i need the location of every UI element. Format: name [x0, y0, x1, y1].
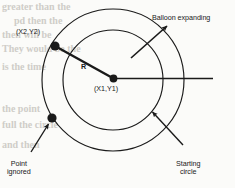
- label-point-x2y2: (X2,Y2): [16, 28, 40, 36]
- label-radius-r: R: [81, 63, 86, 71]
- starting-circle-arrow: [153, 112, 184, 145]
- label-starting-circle: Starting circle: [176, 160, 200, 177]
- label-starting-circle-line2: circle: [180, 167, 196, 176]
- label-point-ignored: Point ignored: [7, 160, 31, 177]
- point-x2y2-dot: [50, 41, 59, 50]
- point-ignored-dot: [47, 113, 56, 122]
- point-ignored-arrow: [31, 124, 49, 152]
- label-balloon-expanding: Balloon expanding: [152, 14, 210, 22]
- label-center-x1y1: (X1,Y1): [94, 85, 118, 93]
- label-point-ignored-line2: ignored: [7, 167, 31, 176]
- balloon-expanding-arrow: [131, 26, 167, 58]
- center-point-dot: [110, 75, 118, 83]
- figure-container: greater than the pd then the then will b…: [0, 0, 235, 188]
